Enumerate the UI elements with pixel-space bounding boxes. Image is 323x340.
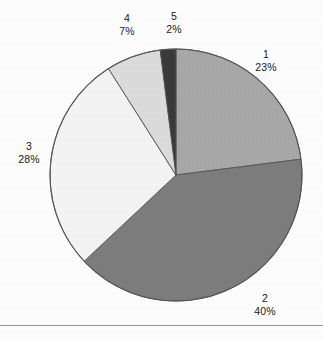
- slice-label-3: 3 28%: [6, 140, 52, 165]
- slice-percent-2: 40%: [242, 305, 288, 318]
- slice-percent-4: 7%: [110, 25, 144, 38]
- footer-rule: [0, 325, 323, 326]
- slice-name-4: 4: [110, 12, 144, 25]
- slice-name-3: 3: [6, 140, 52, 153]
- slice-name-1: 1: [243, 48, 289, 61]
- slice-label-4: 4 7%: [110, 12, 144, 37]
- slice-percent-3: 28%: [6, 153, 52, 166]
- slice-percent-5: 2%: [157, 23, 191, 36]
- pie-chart-figure: 1 23% 2 40% 3 28% 4 7% 5 2%: [0, 0, 323, 340]
- slice-label-1: 1 23%: [243, 48, 289, 73]
- slice-label-2: 2 40%: [242, 292, 288, 317]
- slice-percent-1: 23%: [243, 61, 289, 74]
- pie-slices-group: [50, 49, 302, 301]
- slice-label-5: 5 2%: [157, 10, 191, 35]
- slice-name-2: 2: [242, 292, 288, 305]
- slice-name-5: 5: [157, 10, 191, 23]
